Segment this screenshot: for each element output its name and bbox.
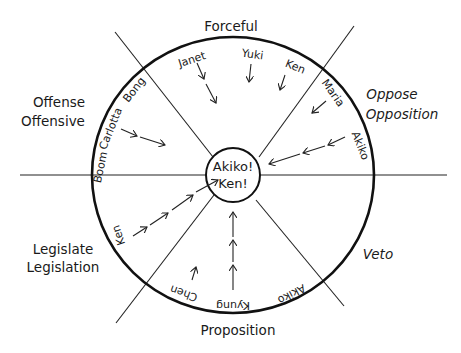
arrow-ken-top <box>280 75 285 90</box>
arrow-ken-left-1 <box>133 227 147 236</box>
name-bong: Bong <box>120 75 148 105</box>
name-janet: Janet <box>176 49 208 71</box>
sector-label-forceful: Forceful <box>204 18 258 34</box>
sector-label-proposition: Proposition <box>201 322 276 338</box>
name-kyung: Kyung <box>216 299 250 312</box>
name-akiko-bottom: Akiko <box>275 281 308 307</box>
center-text-ken: Ken! <box>218 176 247 191</box>
arrow-akiko-right-3 <box>269 154 300 164</box>
sector-label-offense: Offense <box>33 94 85 110</box>
name-maria: Maria <box>319 77 347 109</box>
arrow-carlotta-1 <box>121 129 137 136</box>
sector-label-legislate: Legislate <box>33 241 94 257</box>
arrow-janet-2 <box>206 84 216 103</box>
arrow-yuki <box>249 64 251 82</box>
name-ken-top: Ken <box>283 57 307 77</box>
name-ken-left: Ken <box>109 223 128 246</box>
arrow-akiko-right-2 <box>303 146 325 153</box>
arrow-ken-left-3 <box>172 195 193 210</box>
arrow-maria <box>312 101 326 113</box>
sector-label-opposition: Opposition <box>366 106 439 122</box>
center-text-akiko: Akiko! <box>213 159 253 174</box>
center-circle <box>206 148 260 202</box>
arrow-ken-left-2 <box>150 213 168 225</box>
sector-label-oppose: Oppose <box>366 86 417 102</box>
divider-diagonal-lower-left <box>116 195 214 323</box>
name-yuki: Yuki <box>240 46 264 62</box>
sector-label-legislation: Legislation <box>27 259 100 275</box>
sector-label-offensive: Offensive <box>21 113 85 129</box>
arrow-janet-1 <box>197 63 204 79</box>
arrow-carlotta-2 <box>140 137 165 145</box>
arrow-akiko-right-1 <box>328 137 345 145</box>
arrow-chen <box>192 267 196 280</box>
sector-diagram: Akiko! Ken! Forceful Offense Offensive O… <box>0 0 461 353</box>
sector-label-veto: Veto <box>363 246 393 262</box>
